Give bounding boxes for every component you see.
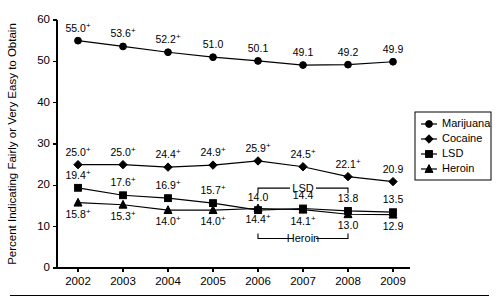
x-tick-label: 2009 <box>380 275 406 287</box>
data-point-lsd-2003 <box>120 192 127 199</box>
data-point-lsd-2002 <box>75 184 82 191</box>
legend-marker-marijuana-icon <box>426 121 433 128</box>
data-label-heroin-2004: 14.0+ <box>155 214 180 228</box>
y-tick-label: 40 <box>37 96 50 108</box>
data-point-marijuana-2005 <box>210 54 217 61</box>
data-point-marijuana-2008 <box>345 61 352 68</box>
data-label-cocaine-2005: 24.9+ <box>200 145 225 159</box>
y-tick-label: 50 <box>37 54 50 66</box>
data-point-marijuana-2004 <box>165 49 172 56</box>
data-label-heroin-2009: 12.9 <box>383 220 404 232</box>
data-label-lsd-2008: 13.8 <box>338 192 359 204</box>
data-label-marijuana-2003: 53.6+ <box>110 26 135 40</box>
data-label-heroin-2007: 14.1+ <box>290 213 315 227</box>
data-point-marijuana-2009 <box>390 58 397 65</box>
x-tick-label: 2004 <box>155 275 181 287</box>
data-label-marijuana-2008: 49.2 <box>338 46 359 58</box>
data-point-lsd-2004 <box>165 195 172 202</box>
data-label-lsd-2005: 15.7+ <box>200 183 225 197</box>
data-label-heroin-2006: 14.4+ <box>245 212 270 226</box>
data-label-cocaine-2008: 22.1+ <box>335 156 360 170</box>
data-label-cocaine-2003: 25.0+ <box>110 144 135 158</box>
data-point-marijuana-2002 <box>75 37 82 44</box>
x-tick-label: 2005 <box>200 275 226 287</box>
data-label-heroin-2002: 15.8+ <box>65 206 90 220</box>
legend-item-label-lsd: LSD <box>442 147 463 159</box>
data-point-cocaine-2005 <box>209 161 217 169</box>
y-tick-label: 10 <box>37 220 50 232</box>
data-label-heroin-2008: 13.0 <box>338 219 359 231</box>
data-point-marijuana-2007 <box>300 62 307 69</box>
data-label-heroin-2003: 15.3+ <box>110 208 135 222</box>
legend-item-label-marijuana: Marijuana <box>442 117 491 129</box>
data-label-marijuana-2005: 51.0 <box>203 38 224 50</box>
y-tick-label: 0 <box>44 261 50 273</box>
legend-item-label-cocaine: Cocaine <box>442 132 482 144</box>
y-tick-label: 60 <box>37 13 50 25</box>
line-chart: 0102030405060Percent Indicating Fairly o… <box>0 0 499 308</box>
chart-figure: 0102030405060Percent Indicating Fairly o… <box>0 0 499 308</box>
bracket-label-heroin: Heroin <box>287 232 319 244</box>
y-axis-label: Percent Indicating Fairly or Very Easy t… <box>6 23 18 265</box>
data-point-cocaine-2004 <box>164 163 172 171</box>
data-label-marijuana-2007: 49.1 <box>293 46 314 58</box>
data-label-lsd-2009: 13.5 <box>383 193 404 205</box>
x-tick-label: 2007 <box>290 275 316 287</box>
legend-item-label-heroin: Heroin <box>442 162 474 174</box>
data-label-lsd-2004: 16.9+ <box>155 178 180 192</box>
bracket-label-lsd: LSD <box>292 182 313 194</box>
legend-marker-lsd-icon <box>426 151 433 158</box>
data-point-cocaine-2009 <box>389 177 397 185</box>
x-tick-label: 2006 <box>245 275 271 287</box>
data-point-cocaine-2003 <box>119 160 127 168</box>
data-point-cocaine-2007 <box>299 163 307 171</box>
data-label-cocaine-2006: 25.9+ <box>245 140 270 154</box>
x-tick-label: 2002 <box>65 275 91 287</box>
data-point-marijuana-2003 <box>120 43 127 50</box>
data-point-cocaine-2008 <box>344 172 352 180</box>
data-label-cocaine-2009: 20.9 <box>383 163 404 175</box>
data-label-marijuana-2006: 50.1 <box>248 42 269 54</box>
data-label-lsd-2002: 19.4+ <box>65 167 90 181</box>
data-point-cocaine-2002 <box>74 160 82 168</box>
y-tick-label: 20 <box>37 178 50 190</box>
data-label-marijuana-2002: 55.0+ <box>65 20 90 33</box>
data-label-heroin-2005: 14.0+ <box>200 214 225 228</box>
data-label-lsd-2003: 17.6+ <box>110 175 135 189</box>
x-tick-label: 2008 <box>335 275 361 287</box>
y-tick-label: 30 <box>37 137 50 149</box>
data-label-marijuana-2009: 49.9 <box>383 43 404 55</box>
data-label-cocaine-2004: 24.4+ <box>155 147 180 161</box>
data-point-heroin-2002 <box>74 198 82 206</box>
data-label-cocaine-2007: 24.5+ <box>290 146 315 160</box>
x-tick-label: 2003 <box>110 275 136 287</box>
data-point-cocaine-2006 <box>254 157 262 165</box>
data-point-marijuana-2006 <box>255 58 262 65</box>
data-label-marijuana-2004: 52.2+ <box>155 32 180 46</box>
data-label-cocaine-2002: 25.0+ <box>65 144 90 158</box>
